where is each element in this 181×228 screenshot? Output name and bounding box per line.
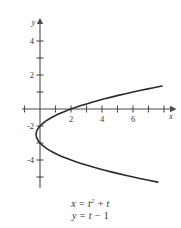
caption-block: x = t2 + t y = t − 1 <box>0 198 181 222</box>
y-tick-label: -2 <box>27 121 34 131</box>
parametric-curve <box>36 86 162 182</box>
equation-x: x = t2 + t <box>0 198 181 210</box>
plot-canvas: 2 4 6 4 2 -2 -4 y x <box>0 0 181 228</box>
equation-y-lhs: y <box>72 210 77 221</box>
x-tick-label: 6 <box>131 114 135 124</box>
y-axis-label: y <box>31 17 36 27</box>
x-tick-label: 4 <box>100 114 105 124</box>
equation-y-equals: = <box>80 210 86 221</box>
x-axis-label: x <box>168 111 173 121</box>
y-tick-label: -4 <box>27 155 35 165</box>
y-axis-arrow-icon <box>37 18 43 24</box>
x-tick-label: 2 <box>69 114 73 124</box>
equation-y-minus: − <box>95 210 101 221</box>
y-tick-label: 2 <box>30 70 34 80</box>
equation-x-plus: + <box>98 198 104 209</box>
y-tick-label: 4 <box>30 36 35 46</box>
equation-x-exponent: 2 <box>91 197 95 204</box>
equation-y: y = t − 1 <box>0 210 181 222</box>
equation-y-base: t <box>89 210 92 221</box>
equation-x-equals: = <box>79 198 85 209</box>
equation-x-tail: t <box>107 198 110 209</box>
equation-y-tail: 1 <box>104 210 109 221</box>
parametric-curve-figure: 2 4 6 4 2 -2 -4 y x x = t2 + t y = t − 1 <box>0 0 181 228</box>
equation-x-lhs: x <box>71 198 76 209</box>
